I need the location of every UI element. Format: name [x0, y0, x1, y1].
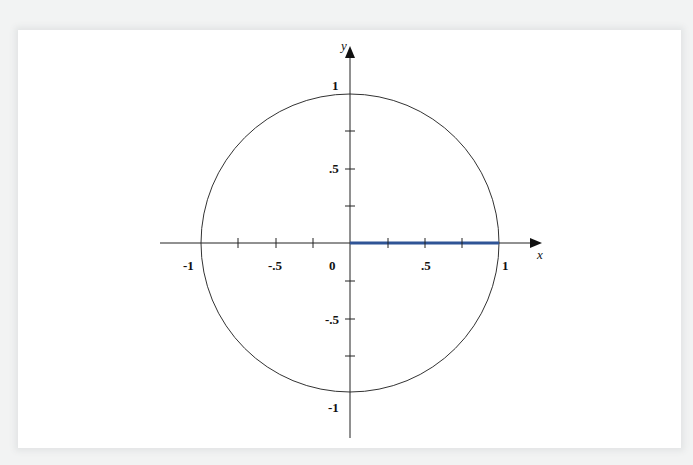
y-axis-label: y [339, 38, 347, 53]
unit-circle-diagram: -1 -.5 0 .5 1 1 .5 -.5 -1 x y [0, 0, 693, 465]
y-tick-label: -1 [328, 400, 339, 415]
x-tick-label: .5 [421, 258, 431, 273]
y-tick-label: .5 [329, 161, 339, 176]
y-tick-label: 1 [332, 78, 339, 93]
y-tick-label: -.5 [325, 312, 340, 327]
x-tick-label: 1 [502, 258, 509, 273]
x-tick-label: -1 [183, 258, 194, 273]
x-tick-label: 0 [329, 258, 336, 273]
x-axis-label: x [536, 247, 543, 262]
x-tick-label: -.5 [268, 258, 283, 273]
